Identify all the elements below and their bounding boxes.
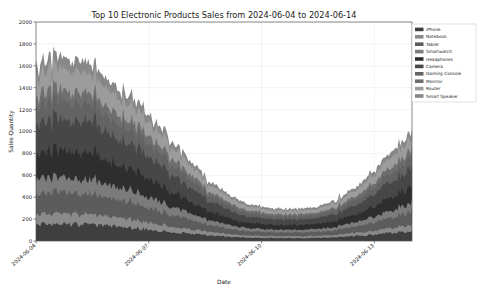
legend-swatch-monitor[interactable] — [415, 79, 424, 83]
legend-swatch-router[interactable] — [415, 87, 424, 91]
legend: iPhoneNotebookTabletSmartwatchHeadphones… — [412, 24, 476, 102]
legend-label-smart-speaker[interactable]: Smart Speaker — [426, 94, 458, 99]
y-axis-title: Sales Quantity — [8, 110, 15, 153]
legend-swatch-smartwatch[interactable] — [415, 50, 424, 54]
legend-label-headphones[interactable]: Headphones — [426, 57, 454, 62]
legend-swatch-notebook[interactable] — [415, 35, 424, 39]
figure-canvas: 0200400600800100012001400160018002000202… — [0, 0, 484, 291]
legend-label-notebook[interactable]: Notebook — [426, 34, 447, 39]
legend-swatch-camera[interactable] — [415, 65, 424, 69]
legend-label-monitor[interactable]: Monitor — [426, 79, 443, 84]
series-bands-group — [36, 47, 412, 241]
y-tick-label: 1800 — [19, 41, 32, 47]
y-tick-label: 800 — [22, 150, 32, 156]
y-tick-label: 1400 — [19, 85, 32, 91]
y-tick-label: 1600 — [19, 63, 32, 69]
legend-label-router[interactable]: Router — [426, 86, 440, 91]
legend-swatch-headphones[interactable] — [415, 57, 424, 61]
legend-swatch-iphone[interactable] — [415, 28, 424, 32]
x-axis-title: Date — [217, 279, 231, 285]
y-tick-label: 400 — [22, 194, 32, 200]
legend-label-smartwatch[interactable]: Smartwatch — [426, 49, 452, 54]
y-tick-label: 600 — [22, 172, 32, 178]
y-tick-label: 1200 — [19, 107, 32, 113]
legend-swatch-tablet[interactable] — [415, 42, 424, 46]
legend-label-iphone[interactable]: iPhone — [426, 27, 441, 32]
chart-title: Top 10 Electronic Products Sales from 20… — [91, 10, 357, 20]
y-tick-label: 2000 — [19, 19, 32, 25]
legend-swatch-gaming-console[interactable] — [415, 72, 424, 76]
y-tick-label: 1000 — [19, 128, 32, 134]
legend-label-gaming-console[interactable]: Gaming Console — [426, 71, 462, 76]
legend-swatch-smart-speaker[interactable] — [415, 94, 424, 98]
y-tick-label: 200 — [22, 216, 32, 222]
legend-label-tablet[interactable]: Tablet — [425, 42, 439, 47]
legend-label-camera[interactable]: Camera — [426, 64, 443, 69]
stacked-area-chart: 0200400600800100012001400160018002000202… — [0, 0, 484, 291]
clip-bottom — [0, 242, 484, 291]
